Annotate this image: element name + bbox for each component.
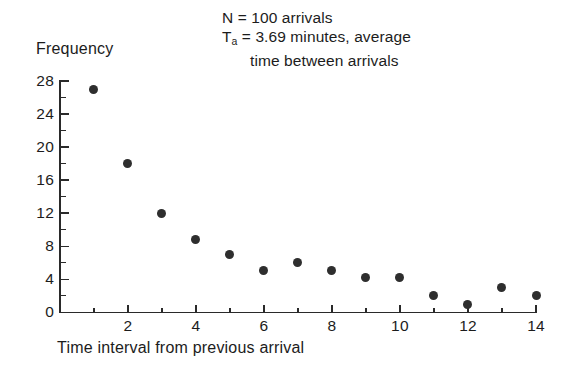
- x-tick-minor: [161, 308, 162, 313]
- chart-figure: N = 100 arrivals Ta = 3.69 minutes, aver…: [0, 0, 583, 373]
- data-point: [191, 235, 200, 244]
- x-tick-label: 2: [108, 317, 148, 335]
- y-tick-label: 12: [14, 204, 54, 222]
- y-tick-major: [61, 179, 69, 180]
- y-tick-major: [61, 146, 69, 147]
- data-point: [89, 85, 98, 94]
- x-tick-minor: [501, 308, 502, 313]
- y-tick-minor: [61, 163, 66, 164]
- y-tick-label: 20: [14, 138, 54, 156]
- plot-area: 04812162024282468101214: [0, 0, 583, 373]
- y-tick-minor: [61, 295, 66, 296]
- x-tick-label: 10: [380, 317, 420, 335]
- y-tick-label: 24: [14, 105, 54, 123]
- x-tick-major: [535, 305, 536, 313]
- data-point: [123, 159, 132, 168]
- data-point: [157, 209, 166, 218]
- x-tick-label: 8: [312, 317, 352, 335]
- data-point: [463, 300, 472, 309]
- x-axis-title: Time interval from previous arrival: [57, 339, 304, 357]
- data-point: [259, 266, 268, 275]
- y-tick-label: 16: [14, 171, 54, 189]
- y-tick-major: [61, 312, 69, 313]
- x-tick-label: 4: [176, 317, 216, 335]
- x-tick-minor: [93, 308, 94, 313]
- x-tick-minor: [433, 308, 434, 313]
- y-tick-minor: [61, 229, 66, 230]
- data-point: [293, 258, 302, 267]
- x-tick-major: [195, 305, 196, 313]
- data-point: [225, 250, 234, 259]
- y-tick-major: [61, 113, 69, 114]
- y-tick-minor: [61, 196, 66, 197]
- y-tick-major: [61, 246, 69, 247]
- x-tick-label: 6: [244, 317, 284, 335]
- data-point: [497, 283, 506, 292]
- x-tick-label: 12: [448, 317, 488, 335]
- x-tick-minor: [365, 308, 366, 313]
- y-tick-minor: [61, 97, 66, 98]
- y-tick-major: [61, 279, 69, 280]
- y-tick-label: 8: [14, 237, 54, 255]
- data-point: [429, 291, 438, 300]
- x-tick-major: [263, 305, 264, 313]
- x-tick-minor: [229, 308, 230, 313]
- x-tick-label: 14: [516, 317, 556, 335]
- data-point: [532, 291, 541, 300]
- y-tick-label: 4: [14, 270, 54, 288]
- x-tick-minor: [297, 308, 298, 313]
- y-tick-label: 0: [14, 303, 54, 321]
- y-tick-minor: [61, 130, 66, 131]
- data-point: [327, 266, 336, 275]
- x-tick-major: [127, 305, 128, 313]
- data-point: [361, 273, 370, 282]
- data-point: [395, 273, 404, 282]
- y-tick-minor: [61, 262, 66, 263]
- x-tick-major: [399, 305, 400, 313]
- y-tick-major: [61, 212, 69, 213]
- x-tick-major: [331, 305, 332, 313]
- y-tick-major: [61, 80, 69, 81]
- y-tick-label: 28: [14, 72, 54, 90]
